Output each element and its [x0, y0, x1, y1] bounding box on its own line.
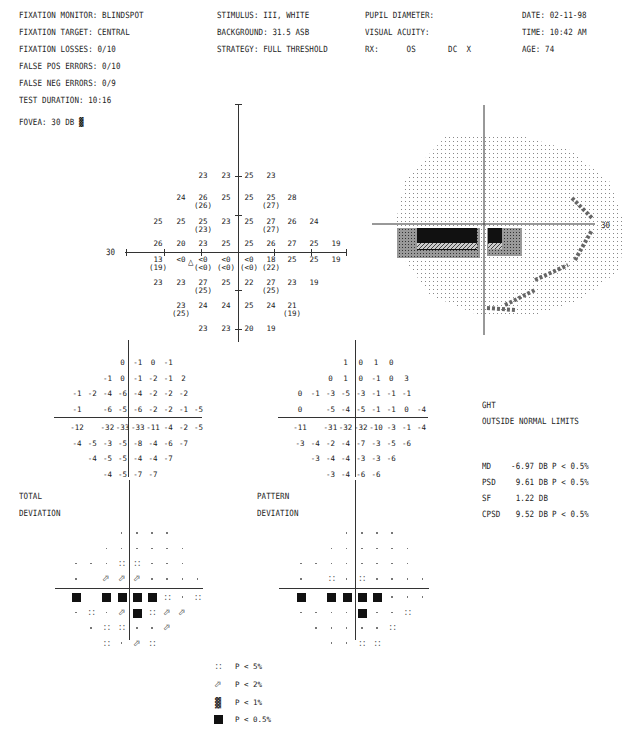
normal-dot-icon [117, 543, 127, 553]
p5-icon: :: [326, 574, 336, 584]
index-name: SF [482, 493, 491, 503]
td-value: -5 [187, 424, 211, 432]
threshold-value: 23 [214, 325, 238, 333]
threshold-value: 25 [237, 194, 261, 202]
normal-dot-icon [372, 559, 382, 569]
normal-dot-icon [357, 559, 367, 569]
td-label-1: TOTAL [19, 491, 42, 501]
test-duration: TEST DURATION: 10:16 [19, 95, 111, 105]
normal-dot-icon [372, 623, 382, 633]
p5-icon: :: [147, 638, 157, 648]
p05-icon [118, 593, 127, 602]
pd-value: -6 [394, 440, 418, 448]
p5-icon: :: [357, 574, 367, 584]
normal-dot-icon [71, 559, 81, 569]
td-value: -1 [156, 359, 180, 367]
pd-value: 0 [288, 406, 312, 414]
td-value: -2 [171, 390, 195, 398]
threshold-value: 25 [280, 256, 304, 264]
p5-icon: :: [387, 623, 397, 633]
threshold-value: 24 [191, 302, 215, 310]
p2-icon: ⬀ [117, 574, 127, 584]
false-pos-errors: FALSE POS ERRORS: 0/10 [19, 61, 121, 71]
td-label-2: DEVIATION [19, 508, 61, 518]
threshold-value: 25 [146, 218, 170, 226]
normal-dot-icon [132, 623, 142, 633]
threshold-repeat-value: (25) [169, 310, 193, 318]
td-value: -7 [156, 455, 180, 463]
threshold-value: 24 [169, 194, 193, 202]
tdp-horizontal-axis [55, 588, 203, 589]
p05-icon [343, 593, 352, 602]
pd-value: 3 [394, 375, 418, 383]
p05-icon [214, 715, 223, 724]
normal-dot-icon [147, 528, 157, 538]
ght-label: GHT [482, 400, 496, 410]
threshold-value: 22 [237, 279, 261, 287]
age: AGE: 74 [522, 44, 554, 54]
p5-icon: :: [402, 608, 412, 618]
false-neg-errors: FALSE NEG ERRORS: 0/9 [19, 78, 116, 88]
threshold-repeat-value: (19) [280, 310, 304, 318]
index-name: MD [482, 461, 491, 471]
normal-dot-icon [177, 592, 187, 602]
threshold-value: 19 [324, 240, 348, 248]
threshold-value: <0 [169, 256, 193, 264]
fovea-text: FOVEA: 30 DB [19, 117, 74, 127]
p5-icon: :: [357, 638, 367, 648]
p2-icon: ⬀ [101, 574, 111, 584]
threshold-value: 25 [214, 240, 238, 248]
threshold-value: 26 [146, 240, 170, 248]
pd-value: -6 [364, 471, 388, 479]
normal-dot-icon [402, 559, 412, 569]
normal-dot-icon [326, 559, 336, 569]
threshold-repeat-value: (22) [259, 264, 283, 272]
td-value: -7 [141, 471, 165, 479]
threshold-value: 23 [280, 279, 304, 287]
normal-dot-icon [147, 543, 157, 553]
normal-dot-icon [147, 623, 157, 633]
normal-dot-icon [326, 608, 336, 618]
rx: RX: OS DC X [365, 44, 471, 54]
threshold-value: 23 [259, 172, 283, 180]
normal-dot-icon [71, 608, 81, 618]
normal-dot-icon [101, 559, 111, 569]
p5-icon: :: [213, 661, 223, 671]
normal-dot-icon [418, 592, 428, 602]
threshold-repeat-value: (<0) [214, 264, 238, 272]
normal-dot-icon [372, 528, 382, 538]
time: TIME: 10:42 AM [522, 27, 587, 37]
pd-horizontal-axis [278, 417, 428, 418]
threshold-axis-label: 30 [106, 247, 115, 257]
threshold-value: 19 [324, 256, 348, 264]
td-value: -7 [171, 440, 195, 448]
normal-dot-icon [117, 528, 127, 538]
p05-icon [297, 593, 306, 602]
normal-dot-icon [311, 623, 321, 633]
normal-dot-icon [372, 543, 382, 553]
td-value: -12 [65, 424, 89, 432]
normal-dot-icon [326, 638, 336, 648]
pd-value: -4 [410, 424, 434, 432]
normal-dot-icon [162, 543, 172, 553]
threshold-value: 28 [280, 194, 304, 202]
normal-dot-icon [162, 559, 172, 569]
threshold-value: 25 [302, 256, 326, 264]
index-value: 1.22 DB [506, 493, 548, 503]
axis-tick [164, 249, 165, 256]
normal-dot-icon [372, 574, 382, 584]
p05-icon [373, 593, 382, 602]
p5-icon: :: [132, 559, 142, 569]
normal-dot-icon [402, 543, 412, 553]
p05-icon [72, 593, 81, 602]
normal-dot-icon [117, 638, 127, 648]
axis-tick [235, 104, 242, 105]
index-name: PSD [482, 477, 496, 487]
normal-dot-icon [147, 559, 157, 569]
normal-dot-icon [326, 623, 336, 633]
normal-dot-icon [387, 592, 397, 602]
threshold-repeat-value: (27) [259, 226, 283, 234]
axis-tick [126, 249, 127, 256]
normal-dot-icon [326, 543, 336, 553]
pd-label-2: DEVIATION [257, 508, 299, 518]
